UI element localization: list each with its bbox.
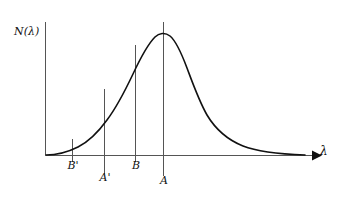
marker-label-b-prime: B' [67,160,78,171]
intensity-curve [46,33,305,155]
x-axis-label: λ [320,145,328,157]
spectral-line-profile-figure: N(λ) λ B' A' B A [0,0,338,200]
y-axis-label: N(λ) [14,26,39,37]
marker-label-b: B [132,160,140,171]
marker-label-a-prime: A' [100,172,111,183]
marker-label-a: A [160,175,168,186]
plot-canvas [0,0,338,200]
